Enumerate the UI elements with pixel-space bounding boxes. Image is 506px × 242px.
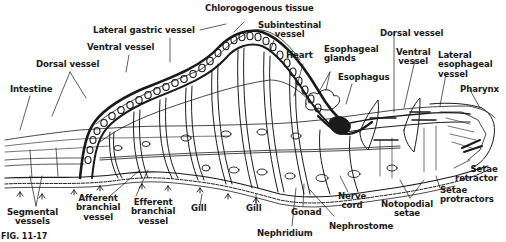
label-ventral-vessel-left: Ventral vessel — [87, 43, 154, 52]
anatomy-diagram: Chlorogogenous tissue Subintestinal vess… — [0, 0, 506, 242]
label-esophagus: Esophagus — [338, 73, 389, 82]
label-nerve-cord: Nerve cord — [338, 192, 366, 211]
label-pharynx: Pharynx — [460, 85, 499, 94]
label-lateral-gastric-vessel: Lateral gastric vessel — [93, 26, 195, 35]
label-dorsal-vessel-left: Dorsal vessel — [36, 60, 99, 69]
label-heart: Heart — [286, 51, 313, 60]
label-chlorogogenous-tissue: Chlorogogenous tissue — [205, 4, 314, 13]
dorsal-body-wall — [5, 106, 495, 140]
label-gill-left: Gill — [191, 204, 207, 213]
label-nephridium: Nephridium — [257, 229, 313, 238]
label-notopodial-setae: Notopodial setae — [381, 200, 433, 219]
label-intestine: Intestine — [10, 85, 52, 94]
label-efferent-branchial-vessel: Efferent branchial vessel — [131, 198, 175, 226]
label-nephrostome: Nephrostome — [329, 222, 393, 231]
label-setae-protractors: Setae protractors — [440, 186, 494, 205]
label-ventral-vessel-right: Ventral vessel — [396, 48, 431, 67]
label-segmental-vessels: Segmental vessels — [7, 208, 58, 227]
label-afferent-branchial-vessel: Afferent branchial vessel — [76, 194, 120, 222]
label-gill-right: Gill — [246, 204, 262, 213]
label-dorsal-vessel-right: Dorsal vessel — [380, 29, 443, 38]
figure-caption: FIG. 11-17 — [1, 232, 47, 242]
label-esophageal-glands: Esophageal glands — [324, 45, 379, 64]
label-lateral-esophageal-vessel: Lateral esophageal vessel — [438, 51, 493, 79]
label-setae-retractor: Setae retractor — [455, 165, 498, 184]
label-subintestinal-vessel: Subintestinal vessel — [258, 21, 321, 40]
label-gonad: Gonad — [291, 208, 322, 217]
